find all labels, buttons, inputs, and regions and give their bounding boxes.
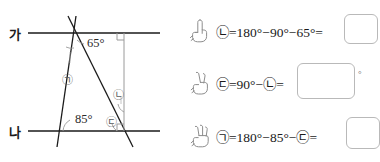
step-2-degree-symbol: ° [358,69,362,79]
unknown-label-b: ㉡ [113,86,124,102]
line-label-na: 나 [9,122,21,141]
angle-arc-b [118,104,124,112]
hand-one-finger-icon [188,16,212,46]
right-angle-mark-top [117,33,124,40]
unknown-label-a: ㉠ [62,71,73,87]
angle-arc-85 [63,120,70,131]
unknown-label-c: ㉢ [106,113,117,129]
angle-label-65: 65° [87,36,105,51]
step-2-answer-box[interactable] [297,63,355,99]
geometry-figure: 가 나 65° 85° ㉠ ㉡ ㉢ [0,0,186,158]
line-label-ga: 가 [9,24,21,43]
solution-step-3: ㉠=180°−85°−㉢= [186,110,373,162]
step-1-equation: ㉡=180°−90°−65°= [216,21,323,41]
step-2-equation: ㉢=90°−㉡= [216,73,284,93]
step-1-answer-box[interactable] [344,14,378,44]
angle-arc-a [66,47,74,48]
solution-step-1: ㉡=180°−90°−65°= [186,5,373,57]
hand-two-fingers-icon [188,68,212,98]
angle-label-85: 85° [75,112,93,127]
figure-canvas [0,0,186,158]
step-3-equation: ㉠=180°−85°−㉢= [216,126,317,146]
solution-step-2: ㉢=90°−㉡= ° [186,57,373,109]
step-3-answer-box[interactable] [346,117,380,149]
hand-three-fingers-icon [188,121,212,151]
solution-steps: ㉡=180°−90°−65°= ㉢=90°−㉡= ° [186,0,373,158]
